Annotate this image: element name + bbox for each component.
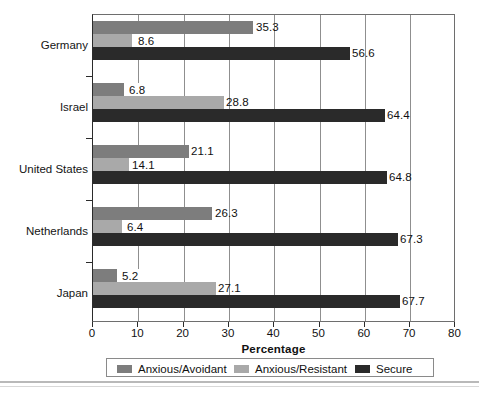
x-tick-label-70: 70 — [394, 327, 424, 339]
category-label-israel: Israel — [0, 101, 88, 113]
category-label-japan-wrap: Japan — [0, 287, 88, 301]
bar-group-germany: 35.3 8.6 56.6 — [93, 21, 454, 63]
x-tick-label-40: 40 — [258, 327, 288, 339]
bar-israel-secure — [93, 109, 385, 122]
bar-germany-secure — [93, 47, 350, 60]
value-germany-anxious-avoidant: 35.3 — [256, 21, 279, 34]
bar-japan-anxious-avoidant — [93, 269, 117, 282]
scan-artifact-line-secondary — [0, 386, 479, 387]
bar-united-states-secure — [93, 171, 387, 184]
value-germany-anxious-resistant: 8.6 — [135, 34, 157, 48]
category-label-united-states: United States — [0, 163, 88, 175]
category-label-israel-wrap: Israel — [0, 101, 88, 115]
value-netherlands-secure: 67.3 — [400, 233, 423, 246]
category-label-netherlands: Netherlands — [0, 225, 88, 237]
bar-netherlands-anxious-avoidant — [93, 207, 212, 220]
value-netherlands-anxious-resistant: 6.4 — [124, 220, 146, 234]
category-label-germany-wrap: Germany — [0, 39, 88, 53]
x-tick-label-80: 80 — [439, 327, 469, 339]
bar-japan-anxious-resistant — [93, 282, 216, 295]
legend-item-anxious-resistant: Anxious/Resistant — [234, 362, 347, 375]
value-japan-secure: 67.7 — [402, 295, 425, 308]
category-label-germany: Germany — [0, 39, 88, 51]
value-israel-secure: 64.4 — [387, 109, 410, 122]
bar-israel-anxious-avoidant — [93, 83, 124, 96]
x-tick-label-30: 30 — [213, 327, 243, 339]
value-japan-anxious-avoidant: 5.2 — [119, 269, 141, 283]
x-axis-title: Percentage — [92, 343, 455, 355]
bar-netherlands-anxious-resistant — [93, 220, 122, 233]
bar-germany-anxious-avoidant — [93, 21, 253, 34]
y-axis-minor-tick-2 — [86, 138, 92, 139]
category-label-japan: Japan — [0, 287, 88, 299]
y-axis-minor-tick-3 — [86, 200, 92, 201]
y-axis-minor-tick-1 — [86, 76, 92, 77]
bar-united-states-anxious-avoidant — [93, 145, 189, 158]
x-tick-label-20: 20 — [168, 327, 198, 339]
value-netherlands-anxious-avoidant: 26.3 — [215, 207, 238, 220]
bar-group-netherlands: 26.3 6.4 67.3 — [93, 207, 454, 249]
chart-legend: Anxious/Avoidant Anxious/Resistant Secur… — [106, 358, 434, 377]
plot-area: 35.3 8.6 56.6 6.8 28.8 64.4 21.1 14.1 64… — [92, 14, 455, 322]
legend-item-anxious-avoidant: Anxious/Avoidant — [117, 362, 227, 375]
bar-israel-anxious-resistant — [93, 96, 224, 109]
bar-group-united-states: 21.1 14.1 64.8 — [93, 145, 454, 187]
category-label-netherlands-wrap: Netherlands — [0, 225, 88, 239]
x-tick-label-50: 50 — [304, 327, 334, 339]
value-united-states-secure: 64.8 — [389, 171, 412, 184]
value-united-states-anxious-resistant: 14.1 — [129, 158, 158, 172]
legend-label-anxious-avoidant: Anxious/Avoidant — [138, 363, 227, 375]
bar-chart: 35.3 8.6 56.6 6.8 28.8 64.4 21.1 14.1 64… — [0, 0, 479, 393]
legend-swatch-secure — [355, 365, 370, 373]
x-tick-label-0: 0 — [77, 327, 107, 339]
y-axis-minor-tick-4 — [86, 262, 92, 263]
category-label-united-states-wrap: United States — [0, 163, 88, 177]
scan-artifact-line — [0, 381, 479, 383]
value-japan-anxious-resistant: 27.1 — [218, 282, 241, 295]
legend-label-secure: Secure — [376, 363, 412, 375]
value-israel-anxious-resistant: 28.8 — [226, 96, 249, 109]
x-tick-label-10: 10 — [122, 327, 152, 339]
bar-group-japan: 5.2 27.1 67.7 — [93, 269, 454, 311]
legend-swatch-anxious-resistant — [234, 365, 249, 373]
bar-group-israel: 6.8 28.8 64.4 — [93, 83, 454, 125]
x-tick-label-60: 60 — [349, 327, 379, 339]
value-israel-anxious-avoidant: 6.8 — [126, 83, 148, 97]
bar-netherlands-secure — [93, 233, 398, 246]
legend-item-secure: Secure — [355, 362, 412, 375]
value-united-states-anxious-avoidant: 21.1 — [191, 145, 214, 158]
legend-swatch-anxious-avoidant — [117, 365, 132, 373]
value-germany-secure: 56.6 — [352, 47, 375, 60]
bar-japan-secure — [93, 295, 400, 308]
legend-label-anxious-resistant: Anxious/Resistant — [255, 363, 347, 375]
bar-germany-anxious-resistant — [93, 34, 132, 47]
